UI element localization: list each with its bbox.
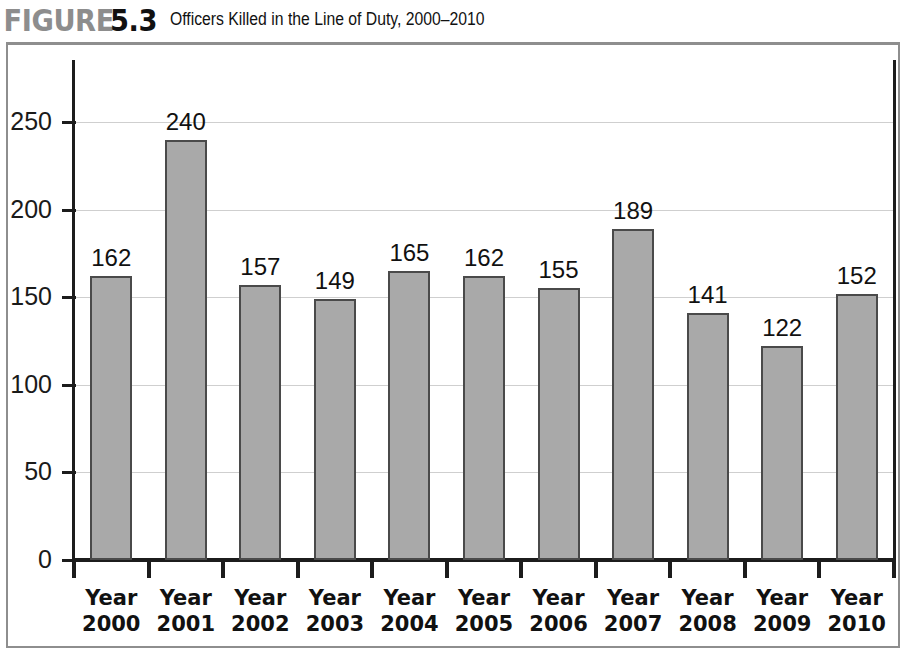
bar	[165, 140, 207, 560]
category-label-word: Year	[74, 586, 149, 612]
x-axis-tick	[370, 560, 374, 578]
x-axis-tick	[519, 560, 523, 578]
x-axis-tick	[892, 560, 896, 578]
bar-value-label: 152	[819, 264, 894, 288]
y-axis-line	[72, 60, 75, 562]
x-axis-tick	[147, 560, 151, 578]
category-label-word: Year	[521, 586, 596, 612]
bar	[538, 288, 580, 560]
category-label-word: Year	[372, 586, 447, 612]
bar	[463, 276, 505, 560]
bar-value-label: 141	[670, 283, 745, 307]
category-label-year: 2000	[74, 612, 149, 638]
bar	[687, 313, 729, 560]
category-label-word: Year	[223, 586, 298, 612]
x-axis-tick	[817, 560, 821, 578]
x-axis-category-label: Year2010	[819, 586, 894, 637]
category-label-word: Year	[670, 586, 745, 612]
x-axis-category-label: Year2009	[745, 586, 820, 637]
x-axis-category-label: Year2005	[447, 586, 522, 637]
bar-value-label: 240	[149, 110, 224, 134]
y-axis-label: 50	[0, 459, 52, 484]
category-label-year: 2001	[149, 612, 224, 638]
y-axis-label: 0	[0, 547, 52, 572]
bar-value-label: 149	[298, 269, 373, 293]
category-label-year: 2008	[670, 612, 745, 638]
right-axis-line	[893, 60, 896, 562]
figure-caption: Officers Killed in the Line of Duty, 200…	[170, 11, 485, 29]
figure-title-bar: FIGURE 5.3 Officers Killed in the Line o…	[0, 0, 906, 40]
y-axis-label: 100	[0, 372, 52, 397]
category-label-year: 2002	[223, 612, 298, 638]
category-label-year: 2006	[521, 612, 596, 638]
bar-value-label: 189	[596, 199, 671, 223]
bar-value-label: 165	[372, 241, 447, 265]
figure-container: FIGURE 5.3 Officers Killed in the Line o…	[0, 0, 906, 654]
x-axis-category-label: Year2001	[149, 586, 224, 637]
y-axis-label: 250	[0, 109, 52, 134]
bar	[314, 299, 356, 560]
category-label-year: 2005	[447, 612, 522, 638]
category-label-year: 2003	[298, 612, 373, 638]
x-axis-category-label: Year2000	[74, 586, 149, 637]
x-axis-tick	[221, 560, 225, 578]
bar	[90, 276, 132, 560]
category-label-year: 2010	[819, 612, 894, 638]
figure-label-word: FIGURE	[0, 5, 114, 36]
x-axis-category-label: Year2004	[372, 586, 447, 637]
figure-label-number: 5.3	[110, 5, 157, 36]
x-axis-tick	[668, 560, 672, 578]
y-axis-label: 150	[0, 284, 52, 309]
x-axis-tick	[445, 560, 449, 578]
x-axis-category-label: Year2003	[298, 586, 373, 637]
bar	[388, 271, 430, 560]
x-axis-category-label: Year2006	[521, 586, 596, 637]
bar	[612, 229, 654, 560]
category-label-word: Year	[447, 586, 522, 612]
x-axis-category-label: Year2002	[223, 586, 298, 637]
x-axis-tick	[743, 560, 747, 578]
category-label-word: Year	[149, 586, 224, 612]
category-label-year: 2004	[372, 612, 447, 638]
category-label-year: 2007	[596, 612, 671, 638]
bar-value-label: 122	[745, 316, 820, 340]
x-axis-category-label: Year2007	[596, 586, 671, 637]
category-label-word: Year	[298, 586, 373, 612]
x-axis-tick	[296, 560, 300, 578]
bar	[761, 346, 803, 560]
bar-value-label: 162	[74, 246, 149, 270]
bar	[239, 285, 281, 560]
category-label-word: Year	[819, 586, 894, 612]
bar	[836, 294, 878, 560]
bar-value-label: 162	[447, 246, 522, 270]
x-axis-category-label: Year2008	[670, 586, 745, 637]
y-axis-label: 200	[0, 197, 52, 222]
category-label-word: Year	[596, 586, 671, 612]
bar-value-label: 157	[223, 255, 298, 279]
x-axis-tick	[72, 560, 76, 578]
category-label-word: Year	[745, 586, 820, 612]
category-label-year: 2009	[745, 612, 820, 638]
x-axis-tick	[594, 560, 598, 578]
bar-value-label: 155	[521, 258, 596, 282]
